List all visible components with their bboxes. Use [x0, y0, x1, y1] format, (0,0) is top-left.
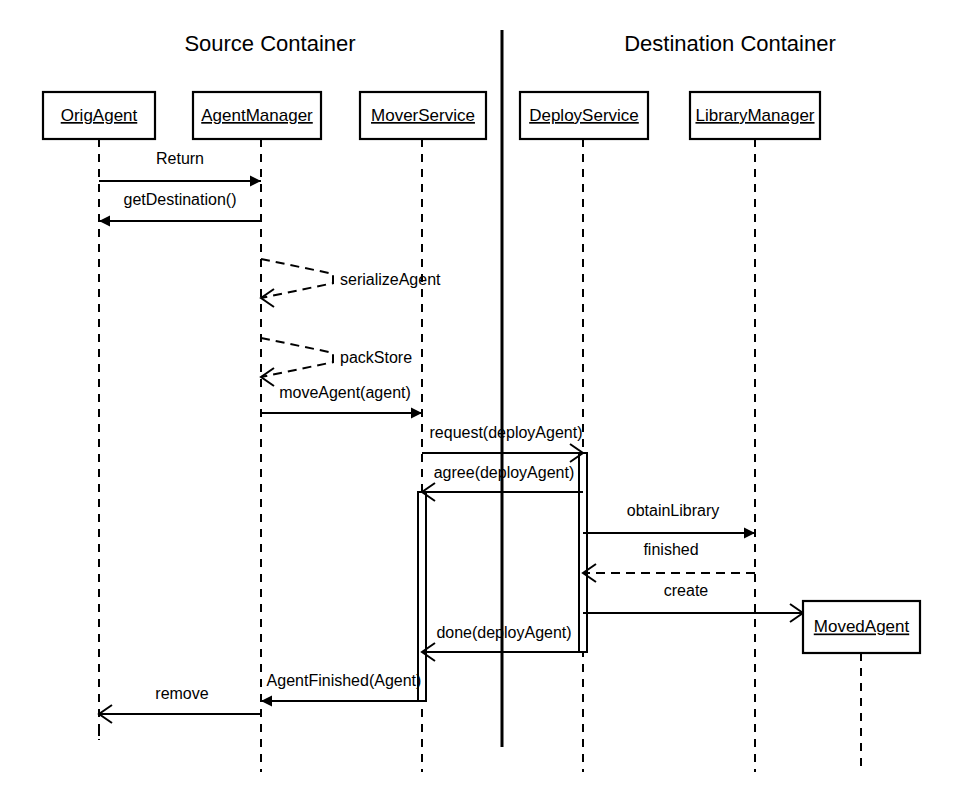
message-label-m7: agree(deployAgent)	[434, 464, 575, 481]
message-label-m6: request(deployAgent)	[430, 424, 583, 441]
arrowhead-m1	[250, 176, 261, 187]
participant-label-moverservice: MoverService	[371, 106, 475, 125]
group-title-destination: Destination Container	[624, 31, 836, 56]
message-label-m8: obtainLibrary	[627, 502, 720, 519]
message-m4[interactable]: packStore	[261, 338, 412, 386]
message-m12[interactable]: AgentFinished(Agent)	[261, 672, 422, 706]
arrowhead-m12	[261, 696, 272, 707]
message-m10[interactable]: create	[583, 582, 803, 622]
message-label-m2: getDestination()	[124, 191, 237, 208]
activation-bar-deployservice	[579, 453, 587, 652]
message-m5[interactable]: moveAgent(agent)	[261, 384, 422, 418]
arrowhead-m8	[744, 528, 755, 539]
arrowhead-m5	[411, 408, 422, 419]
message-label-m12: AgentFinished(Agent)	[267, 672, 422, 689]
messages-layer: ReturngetDestination()serializeAgentpack…	[99, 150, 803, 723]
lifelines-layer	[99, 139, 861, 772]
message-m13[interactable]: remove	[99, 685, 261, 723]
message-m8[interactable]: obtainLibrary	[583, 502, 755, 538]
participant-label-origagent: OrigAgent	[61, 106, 138, 125]
message-m1[interactable]: Return	[99, 150, 261, 186]
sequence-diagram-svg: Source Container Destination Container R…	[0, 0, 957, 808]
message-label-m9: finished	[643, 541, 698, 558]
arrowhead-m2	[99, 216, 110, 227]
message-m3[interactable]: serializeAgent	[261, 259, 441, 307]
message-label-m4: packStore	[340, 349, 412, 366]
message-label-m3: serializeAgent	[340, 271, 441, 288]
message-label-m10: create	[664, 582, 709, 599]
message-label-m1: Return	[156, 150, 204, 167]
participant-agentmanager[interactable]: AgentManager	[193, 92, 321, 139]
self-message-path-m3	[261, 259, 333, 298]
message-label-m13: remove	[155, 685, 208, 702]
group-titles: Source Container Destination Container	[184, 31, 835, 56]
message-m2[interactable]: getDestination()	[99, 191, 261, 226]
group-title-source: Source Container	[184, 31, 355, 56]
participant-boxes-layer: OrigAgentAgentManagerMoverServiceDeployS…	[43, 92, 920, 740]
message-label-m11: done(deployAgent)	[436, 624, 571, 641]
participant-moverservice[interactable]: MoverService	[360, 92, 486, 139]
participant-label-deployservice: DeployService	[529, 106, 639, 125]
participant-label-librarymanager: LibraryManager	[695, 106, 814, 125]
participant-deployservice[interactable]: DeployService	[520, 92, 648, 139]
participant-librarymanager[interactable]: LibraryManager	[690, 92, 820, 139]
activation-bar-moverservice	[418, 492, 426, 701]
sequence-diagram-canvas: Source Container Destination Container R…	[0, 0, 957, 808]
message-label-m5: moveAgent(agent)	[279, 384, 411, 401]
self-message-path-m4	[261, 338, 333, 377]
participant-movedagent[interactable]: MovedAgent	[803, 601, 920, 653]
participant-label-movedagent: MovedAgent	[814, 617, 910, 636]
participant-label-agentmanager: AgentManager	[201, 106, 313, 125]
message-m9[interactable]: finished	[583, 541, 755, 582]
